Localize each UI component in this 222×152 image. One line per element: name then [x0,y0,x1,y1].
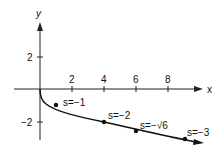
x-tick-8: 8 [165,74,171,85]
x-tick-2: 2 [69,74,75,85]
point-s-minus-sqrt6 [134,129,138,133]
x-axis-label: x [207,84,212,95]
label-s-minus-3: s=−3 [187,127,210,138]
label-s-minus-2: s=−2 [108,110,131,121]
x-tick-4: 4 [101,74,107,85]
y-tick-2: 2 [27,52,33,63]
y-tick-minus-2: −2 [21,117,33,128]
parametric-plot: x y 2 4 6 8 2 −2 s=−1 s=−2 s=−√6 s=−3 [0,0,222,152]
y-axis-arrow-icon [37,22,43,31]
y-axis-label: y [35,8,42,19]
x-tick-6: 6 [133,74,139,85]
point-s-minus-2 [102,120,106,124]
curve-arrow-icon [193,139,204,145]
label-s-minus-1: s=−1 [63,97,86,108]
x-axis-arrow-icon [194,86,203,92]
label-s-minus-sqrt6: s=−√6 [140,120,168,131]
point-s-minus-1 [54,103,58,107]
